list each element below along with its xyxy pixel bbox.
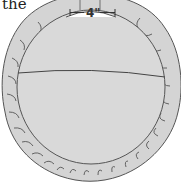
- illustration-page: the: [0, 0, 181, 187]
- ruffled-cushion-illustration: 4": [0, 0, 181, 187]
- cushion-top: [17, 10, 165, 164]
- measurement-label: 4": [86, 6, 101, 20]
